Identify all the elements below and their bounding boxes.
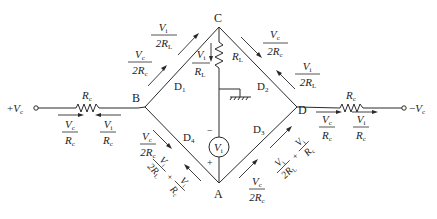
svg-text:Rc: Rc bbox=[167, 183, 183, 199]
arrow-right-vc bbox=[316, 110, 342, 114]
resistor-rc-left-icon bbox=[76, 104, 99, 112]
arrow-ba-vc bbox=[153, 130, 172, 149]
node-b-label: B bbox=[132, 91, 140, 105]
svg-text:Rc: Rc bbox=[355, 129, 366, 143]
svg-text:Vi: Vi bbox=[197, 48, 206, 62]
resistor-rc-right-icon bbox=[340, 104, 363, 112]
arrow-cd-vc bbox=[241, 37, 262, 58]
label-ad-vc: Vc 2Rc bbox=[249, 175, 265, 205]
right-branch bbox=[297, 104, 406, 112]
svg-text:2RL: 2RL bbox=[156, 37, 173, 51]
label-right-vi: Vi Rc bbox=[353, 113, 369, 143]
diode-d2-label: D2 bbox=[257, 80, 269, 94]
left-terminal-label: +Vc bbox=[7, 102, 23, 116]
svg-text:Vc: Vc bbox=[142, 130, 152, 144]
svg-text:Vi: Vi bbox=[303, 60, 312, 74]
wire-b-join bbox=[138, 107, 145, 108]
svg-text:+: + bbox=[290, 151, 301, 162]
svg-text:+: + bbox=[165, 172, 176, 183]
rl-label: RL bbox=[231, 50, 243, 64]
label-ad-sum: Vi 2RL + Vi Rc bbox=[268, 133, 317, 182]
left-branch bbox=[34, 104, 145, 112]
svg-text:Rc: Rc bbox=[64, 134, 75, 148]
center-branch: Vi − + bbox=[207, 27, 251, 183]
node-a-label: A bbox=[214, 187, 223, 201]
ground-icon bbox=[230, 97, 251, 100]
label-left-vc: Vc Rc bbox=[62, 118, 78, 148]
diode-bridge-diagram: Vi − + C B D A +Vc −Vc Rc Rc RL D1 D2 D3… bbox=[0, 0, 437, 219]
source-plus: + bbox=[207, 157, 213, 168]
arrow-left-vc bbox=[58, 113, 84, 117]
left-terminal-icon bbox=[34, 106, 38, 110]
rc-right-label: Rc bbox=[345, 89, 356, 103]
svg-text:Vc: Vc bbox=[65, 118, 75, 132]
svg-text:Vc: Vc bbox=[270, 28, 280, 42]
label-bc-vi: Vi 2RL bbox=[151, 21, 177, 51]
source-minus: − bbox=[207, 125, 213, 136]
svg-text:2Rc: 2Rc bbox=[132, 64, 147, 78]
node-d-label: D bbox=[298, 103, 307, 117]
diode-d1-label: D1 bbox=[174, 80, 186, 94]
arrow-rl-vi bbox=[209, 43, 213, 62]
label-ba-vc: Vc 2Rc bbox=[140, 130, 156, 160]
svg-text:2Rc: 2Rc bbox=[267, 45, 282, 59]
label-bc-vc: Vc 2Rc bbox=[128, 48, 152, 78]
node-c-label: C bbox=[214, 11, 222, 25]
svg-text:Vi: Vi bbox=[104, 118, 113, 132]
label-left-vi: Vi Rc bbox=[100, 118, 116, 148]
right-terminal-label: −Vc bbox=[409, 102, 425, 116]
svg-text:2Rc: 2Rc bbox=[140, 146, 155, 160]
label-cd-vi: Vi 2RL bbox=[295, 60, 320, 90]
arrow-bc-vc bbox=[148, 65, 167, 86]
svg-text:Vi: Vi bbox=[357, 113, 366, 127]
diode-d4-label: D4 bbox=[183, 131, 195, 145]
svg-text:Vc: Vc bbox=[135, 48, 145, 62]
right-terminal-icon bbox=[402, 106, 406, 110]
svg-text:2RL: 2RL bbox=[300, 76, 317, 90]
wire-c-d bbox=[219, 27, 297, 107]
svg-text:Rc: Rc bbox=[321, 129, 332, 143]
diode-d3-label: D3 bbox=[253, 123, 265, 137]
svg-text:Rc: Rc bbox=[301, 144, 317, 160]
arrow-ad-sum bbox=[270, 126, 292, 148]
arrow-cd-vi bbox=[276, 70, 295, 89]
svg-text:Vi: Vi bbox=[159, 21, 168, 35]
label-cd-vc: Vc 2Rc bbox=[263, 28, 288, 59]
svg-text:2Rc: 2Rc bbox=[249, 191, 264, 205]
label-right-vc: Vc Rc bbox=[319, 113, 335, 143]
arrow-left-vi bbox=[95, 113, 121, 117]
resistor-rl-icon bbox=[215, 42, 223, 68]
svg-text:Rc: Rc bbox=[102, 134, 113, 148]
rc-left-label: Rc bbox=[81, 89, 92, 103]
svg-text:RL: RL bbox=[193, 65, 205, 79]
svg-text:Vc: Vc bbox=[322, 113, 332, 127]
svg-text:Vc: Vc bbox=[252, 175, 262, 189]
